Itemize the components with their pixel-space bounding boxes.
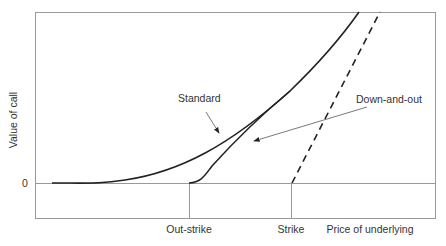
chart: Value of call 0 Out-strike Strike Price … (0, 0, 446, 246)
out-strike-label: Out-strike (166, 223, 212, 235)
standard-annotation: Standard (178, 92, 221, 104)
standard-arrow (206, 112, 219, 133)
down-and-out-arrow (254, 107, 367, 141)
strike-label: Strike (278, 223, 305, 235)
x-axis-label: Price of underlying (327, 223, 414, 235)
zero-tick-label: 0 (22, 177, 28, 189)
plot-frame (36, 13, 436, 219)
down-and-out-curve (189, 91, 290, 183)
y-axis-label: Value of call (7, 92, 19, 148)
down-and-out-annotation: Down-and-out (356, 93, 422, 105)
